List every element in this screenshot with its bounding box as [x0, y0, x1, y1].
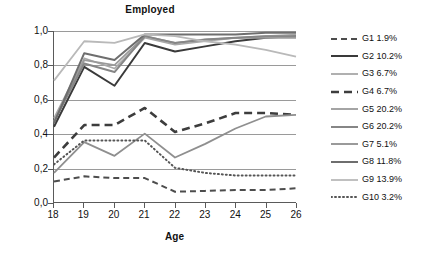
- legend-swatch-g7: [331, 139, 358, 149]
- legend-swatch-g2: [331, 51, 358, 61]
- legend-item[interactable]: G3 6.7%: [331, 65, 427, 83]
- series-line: [54, 176, 296, 191]
- legend-item[interactable]: G4 6.7%: [331, 83, 427, 101]
- series-line: [54, 108, 296, 158]
- y-tick-label: 0,0: [18, 198, 48, 208]
- legend-item[interactable]: G2 10.2%: [331, 48, 427, 66]
- y-tick-label: 1,0: [18, 26, 48, 36]
- legend-swatch-g1: [331, 34, 358, 44]
- line-chart: Employed 0,00,20,40,60,81,0 181920212223…: [0, 0, 427, 253]
- plot-area: [53, 31, 296, 203]
- x-tick-label: 26: [283, 210, 309, 220]
- legend-swatch-g4: [331, 87, 358, 97]
- legend-label: G9 13.9%: [362, 175, 402, 184]
- legend-swatch-g5: [331, 104, 358, 114]
- legend-swatch-g10: [331, 192, 358, 202]
- x-tick-mark: [114, 203, 115, 208]
- y-tick-label: 0,4: [18, 129, 48, 139]
- series-line: [54, 33, 296, 124]
- x-tick-label: 21: [131, 210, 157, 220]
- legend-label: G6 20.2%: [362, 122, 402, 131]
- legend-label: G5 20.2%: [362, 105, 402, 114]
- legend-label: G1 1.9%: [362, 34, 397, 43]
- x-tick-label: 24: [222, 210, 248, 220]
- x-tick-mark: [266, 203, 267, 208]
- x-tick-label: 18: [40, 210, 66, 220]
- y-tick-label: 0,8: [18, 60, 48, 70]
- series-lines: [54, 31, 296, 202]
- legend-item[interactable]: G9 13.9%: [331, 171, 427, 189]
- legend-label: G4 6.7%: [362, 87, 397, 96]
- x-tick-mark: [53, 203, 54, 208]
- legend-label: G2 10.2%: [362, 52, 402, 61]
- x-tick-mark: [144, 203, 145, 208]
- x-tick-mark: [235, 203, 236, 208]
- series-line: [54, 115, 296, 173]
- x-tick-label: 20: [101, 210, 127, 220]
- series-line: [54, 34, 296, 80]
- legend-swatch-g9: [331, 175, 358, 185]
- legend-swatch-g3: [331, 69, 358, 79]
- legend-item[interactable]: G6 20.2%: [331, 118, 427, 136]
- chart-legend: G1 1.9%G2 10.2%G3 6.7%G4 6.7%G5 20.2%G6 …: [331, 30, 427, 206]
- x-axis-title: Age: [53, 231, 296, 242]
- legend-item[interactable]: G5 20.2%: [331, 100, 427, 118]
- x-tick-label: 22: [162, 210, 188, 220]
- x-tick-mark: [175, 203, 176, 208]
- legend-label: G10 3.2%: [362, 193, 402, 202]
- x-tick-mark: [205, 203, 206, 208]
- x-tick-label: 23: [192, 210, 218, 220]
- series-line: [54, 34, 296, 118]
- chart-title: Employed: [0, 4, 300, 15]
- legend-swatch-g8: [331, 157, 358, 167]
- y-tick-label: 0,2: [18, 164, 48, 174]
- x-tick-mark: [296, 203, 297, 208]
- legend-swatch-g6: [331, 122, 358, 132]
- legend-item[interactable]: G10 3.2%: [331, 188, 427, 206]
- legend-item[interactable]: G7 5.1%: [331, 136, 427, 154]
- legend-label: G3 6.7%: [362, 69, 397, 78]
- x-tick-label: 25: [253, 210, 279, 220]
- legend-item[interactable]: G1 1.9%: [331, 30, 427, 48]
- x-tick-mark: [83, 203, 84, 208]
- legend-label: G8 11.8%: [362, 157, 401, 166]
- x-tick-label: 19: [70, 210, 96, 220]
- legend-item[interactable]: G8 11.8%: [331, 153, 427, 171]
- y-tick-label: 0,6: [18, 95, 48, 105]
- legend-label: G7 5.1%: [362, 140, 397, 149]
